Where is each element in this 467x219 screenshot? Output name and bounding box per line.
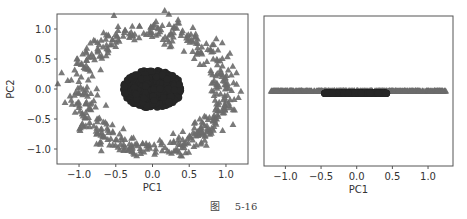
x-tick-label: −1.0 — [67, 169, 91, 180]
circle-series — [321, 90, 390, 97]
y-axis-label: PC2 — [5, 79, 16, 98]
x-axis-label: PC1 — [349, 184, 368, 195]
x-tick-label: 0.5 — [181, 169, 197, 180]
figure-caption: 图 5-16 — [0, 198, 467, 213]
x-tick-label: 0.0 — [349, 171, 365, 182]
x-tick-label: 0.5 — [384, 171, 400, 182]
right-scatter-plot: −1.0−0.50.00.51.0PC1 — [264, 16, 453, 195]
left-scatter-plot: −1.0−0.50.00.51.0−1.0−0.50.00.51.0PC1PC2 — [5, 7, 248, 193]
y-tick-label: 0.5 — [35, 54, 51, 65]
data-points — [268, 87, 449, 96]
x-axis-label: PC1 — [143, 182, 162, 193]
caption-number: 5-16 — [235, 201, 257, 212]
x-tick-label: 1.0 — [420, 171, 436, 182]
x-tick-label: −0.5 — [104, 169, 128, 180]
y-tick-label: 1.0 — [35, 24, 51, 35]
x-tick-label: 0.0 — [145, 169, 161, 180]
y-tick-label: −1.0 — [27, 144, 51, 155]
x-tick-label: −0.5 — [309, 171, 333, 182]
x-tick-label: 1.0 — [218, 169, 234, 180]
caption-prefix: 图 — [210, 201, 220, 212]
data-points — [54, 7, 244, 158]
y-tick-label: 0.0 — [35, 84, 51, 95]
figure: −1.0−0.50.00.51.0−1.0−0.50.00.51.0PC1PC2… — [0, 0, 467, 219]
circle-series — [120, 67, 184, 111]
x-tick-label: −1.0 — [273, 171, 297, 182]
y-tick-label: −0.5 — [27, 114, 51, 125]
